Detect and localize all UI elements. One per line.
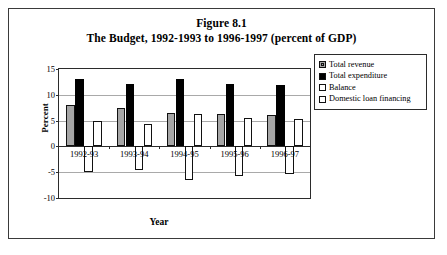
bar-revenue [66,105,74,146]
legend-label: Total revenue [329,60,374,70]
bar-group [59,69,109,198]
bar-group [210,69,260,198]
legend-label: Balance [329,83,356,93]
bar-expenditure [75,79,83,146]
x-axis-label: Year [9,217,309,227]
bar-dlf [93,121,101,147]
legend-item[interactable]: Total expenditure [319,71,423,81]
bar-revenue [217,114,225,146]
y-tick-label: 5 [51,116,55,126]
legend-label: Domestic loan financing [329,94,411,104]
chart-legend: Total revenue Total expenditure Balance … [314,54,427,110]
y-tick-label: -5 [48,167,55,177]
y-tick-label: 10 [47,90,56,100]
x-category-label: 1996-97 [260,149,310,159]
bar-dlf [244,118,252,146]
legend-swatch-domestic-loan-financing [319,96,326,103]
y-tick-label: 15 [47,64,56,74]
y-tick-mark [56,198,59,199]
y-tick-label: -10 [44,193,55,203]
bar-dlf [294,119,302,146]
legend-item[interactable]: Domestic loan financing [319,94,423,104]
bar-dlf [144,124,152,147]
x-category-label: 1993-94 [109,149,159,159]
bar-group [159,69,209,198]
bar-expenditure [176,79,184,147]
x-category-label: 1994-95 [159,149,209,159]
x-category-label: 1992-93 [59,149,109,159]
y-tick-label: 0 [51,141,55,151]
bar-group [109,69,159,198]
plot-area: 151050-5-101992-931993-941994-951995-961… [58,68,311,199]
legend-item[interactable]: Balance [319,83,423,93]
bar-revenue [267,115,275,146]
bar-expenditure [276,85,284,146]
figure-frame: Figure 8.1 The Budget, 1992-1993 to 1996… [8,8,435,239]
legend-swatch-balance [319,84,326,91]
bar-revenue [117,108,125,146]
legend-swatch-total-revenue [319,61,326,68]
bar-expenditure [126,84,134,146]
legend-label: Total expenditure [329,71,387,81]
bar-revenue [167,113,175,147]
x-category-label: 1995-96 [210,149,260,159]
bar-group [260,69,310,198]
plot-wrapper: Percent 151050-5-101992-931993-941994-95… [9,9,436,240]
legend-item[interactable]: Total revenue [319,60,423,70]
bar-expenditure [226,84,234,146]
legend-swatch-total-expenditure [319,73,326,80]
bar-dlf [194,114,202,147]
